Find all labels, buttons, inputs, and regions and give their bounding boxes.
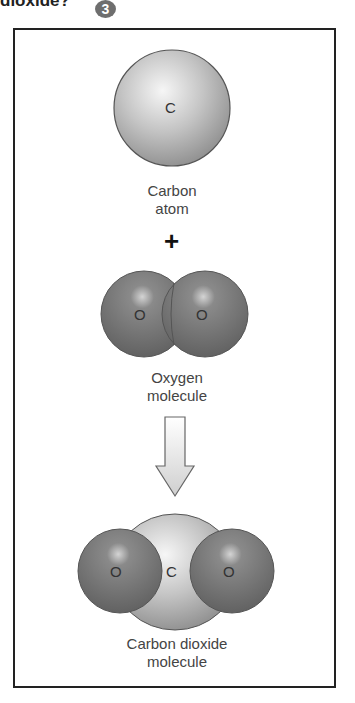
diagram-illustration bbox=[0, 0, 355, 703]
co2-oxygen-right: O bbox=[223, 563, 235, 580]
co2-label-line1: Carbon dioxide bbox=[92, 635, 262, 652]
co2-label-line2: molecule bbox=[92, 653, 262, 670]
carbon-atom-label-line1: Carbon bbox=[122, 182, 222, 199]
oxygen-molecule-label-line2: molecule bbox=[122, 387, 232, 404]
oxygen-symbol-2: O bbox=[196, 306, 208, 323]
down-arrow-icon bbox=[156, 417, 194, 496]
oxygen-symbol-1: O bbox=[134, 306, 146, 323]
co2-carbon-center: C bbox=[166, 563, 177, 580]
oxygen-molecule-label-line1: Oxygen bbox=[122, 369, 232, 386]
carbon-atom-label-line2: atom bbox=[122, 200, 222, 217]
co2-oxygen-left: O bbox=[110, 563, 122, 580]
plus-icon: + bbox=[164, 226, 179, 257]
oxygen-molecule-icon bbox=[101, 271, 248, 357]
carbon-symbol: C bbox=[165, 99, 176, 116]
